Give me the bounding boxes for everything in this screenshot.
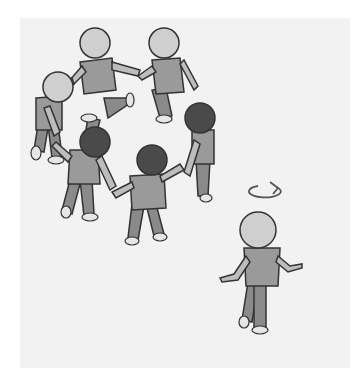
- child-top-left: [70, 28, 140, 136]
- head-light: [43, 72, 73, 102]
- head-light: [149, 28, 179, 58]
- rotation-arrow-icon: [249, 182, 281, 197]
- circle-game-illustration: [0, 0, 363, 384]
- child-walking-away: [220, 212, 302, 334]
- head-dark: [185, 103, 215, 133]
- child-left: [31, 72, 74, 164]
- head-dark: [137, 145, 167, 175]
- head-light: [240, 212, 276, 248]
- head-dark: [80, 127, 110, 157]
- child-right: [184, 103, 215, 202]
- child-bottom-center: [112, 145, 184, 245]
- child-bottom-left: [52, 127, 116, 221]
- head-light: [80, 28, 110, 58]
